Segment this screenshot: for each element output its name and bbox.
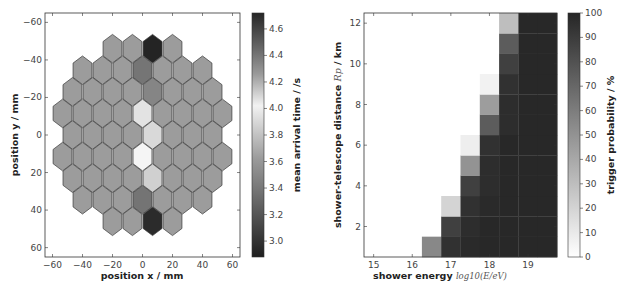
- heatmap-cell: [518, 115, 538, 136]
- y-tick-label: 0: [36, 130, 42, 140]
- right-x-axis-label: shower energy log10(E/eV): [373, 270, 507, 281]
- colorbar-tick-label: 3.8: [269, 130, 284, 140]
- heatmap-cell: [518, 155, 538, 176]
- heatmap-cell: [538, 155, 558, 176]
- colorbar-tick-label: 4.6: [269, 24, 284, 34]
- y-tick-label: −20: [23, 92, 42, 102]
- left-x-axis-label: position x / mm: [101, 270, 184, 281]
- colorbar-tick-label: 60: [585, 106, 597, 116]
- y-tick-label: 2: [355, 222, 361, 232]
- heatmap-cell: [499, 237, 519, 258]
- heatmap-cell: [518, 54, 538, 75]
- left-colorbar-ticks: 3.03.23.43.63.84.04.24.44.6: [264, 24, 284, 246]
- y-tick-label: 4: [355, 181, 361, 191]
- heatmap-cell: [499, 74, 519, 95]
- heatmap-cell: [461, 196, 481, 217]
- y-tick-label: 12: [350, 18, 361, 28]
- heatmap-cell: [518, 94, 538, 115]
- heatmap-cell: [538, 115, 558, 136]
- heatmap-cell: [518, 176, 538, 197]
- heatmap-cell: [518, 74, 538, 95]
- right-colorbar-ticks: 0102030405060708090100: [580, 8, 602, 262]
- x-tick-label: 17: [445, 260, 456, 270]
- heatmap-cell: [499, 155, 519, 176]
- right-panel-trigger-heatmap: 151617181924681012 shower energy log10(E…: [332, 8, 616, 281]
- heatmap-cell: [499, 176, 519, 197]
- left-y-axis-label: position y / mm: [9, 94, 20, 177]
- right-y-axis-label: shower-telescope distance Rp / km: [332, 42, 343, 228]
- colorbar-tick-label: 50: [585, 130, 597, 140]
- heatmap-cell: [518, 33, 538, 54]
- heatmap-cell: [499, 13, 519, 34]
- colorbar-tick-label: 100: [585, 8, 602, 18]
- colorbar-tick-label: 70: [585, 81, 597, 91]
- heatmap-cell: [518, 196, 538, 217]
- heatmap-cell: [461, 155, 481, 176]
- heatmap-cell: [441, 216, 461, 237]
- x-tick-label: 19: [522, 260, 534, 270]
- colorbar-tick-label: 3.2: [269, 210, 283, 220]
- x-tick-label: −60: [43, 260, 62, 270]
- colorbar-tick-label: 3.0: [269, 236, 284, 246]
- heatmap-cell: [480, 176, 500, 197]
- x-tick-label: −40: [73, 260, 92, 270]
- x-tick-label: 40: [197, 260, 209, 270]
- left-panel-camera-map: −60−40−200204060−60−40−200204060 positio…: [9, 13, 302, 281]
- heatmap-cell: [441, 196, 461, 217]
- x-tick-label: −20: [103, 260, 122, 270]
- left-colorbar-label: mean arrival time / /s: [291, 77, 302, 192]
- heatmap-cell: [499, 196, 519, 217]
- y-tick-label: 8: [355, 100, 361, 110]
- heatmap-cell: [480, 196, 500, 217]
- heatmap-cell: [480, 74, 500, 95]
- heatmap-cell: [480, 94, 500, 115]
- x-tick-label: 20: [167, 260, 179, 270]
- heatmap-cell: [538, 33, 558, 54]
- colorbar-tick-label: 30: [585, 179, 597, 189]
- heatmap-cell: [422, 237, 442, 258]
- heatmap-cell: [538, 74, 558, 95]
- heatmap-cell: [538, 237, 558, 258]
- x-tick-label: 16: [407, 260, 419, 270]
- heatmap-cell: [480, 135, 500, 156]
- heatmap-cell: [518, 216, 538, 237]
- heatmap-cell: [518, 13, 538, 34]
- y-tick-label: −60: [23, 17, 42, 27]
- heatmap-cell: [538, 196, 558, 217]
- heatmap-cell: [461, 237, 481, 258]
- right-colorbar-label: trigger probability / %: [605, 75, 616, 194]
- heatmap-cell: [499, 54, 519, 75]
- colorbar-tick-label: 80: [585, 57, 597, 67]
- heatmap-cell: [499, 135, 519, 156]
- colorbar-tick-label: 4.2: [269, 77, 283, 87]
- right-colorbar: [568, 13, 580, 257]
- x-tick-label: 0: [140, 260, 146, 270]
- heatmap-cell: [480, 216, 500, 237]
- heatmap-cell: [480, 155, 500, 176]
- heatmap-cell: [499, 94, 519, 115]
- y-tick-label: 10: [350, 59, 362, 69]
- heatmap-cell: [461, 176, 481, 197]
- colorbar-tick-label: 20: [585, 203, 597, 213]
- figure: −60−40−200204060−60−40−200204060 positio…: [0, 0, 621, 290]
- left-colorbar: [252, 13, 264, 257]
- heatmap-cell: [461, 216, 481, 237]
- x-tick-label: 60: [227, 260, 239, 270]
- heatmap-cell: [499, 216, 519, 237]
- colorbar-tick-label: 0: [585, 252, 591, 262]
- heatmap-cell: [461, 135, 481, 156]
- y-tick-label: −40: [23, 55, 42, 65]
- y-tick-label: 6: [355, 140, 361, 150]
- colorbar-tick-label: 4.0: [269, 103, 284, 113]
- colorbar-tick-label: 4.4: [269, 50, 284, 60]
- y-tick-label: 60: [31, 243, 43, 253]
- heatmap-cell: [499, 33, 519, 54]
- heatmap-cell: [499, 115, 519, 136]
- colorbar-tick-label: 3.4: [269, 183, 284, 193]
- colorbar-tick-label: 3.6: [269, 157, 284, 167]
- colorbar-tick-label: 90: [585, 32, 597, 42]
- x-tick-label: 18: [484, 260, 496, 270]
- colorbar-tick-label: 40: [585, 154, 597, 164]
- x-tick-label: 15: [368, 260, 379, 270]
- heatmap-cell: [480, 115, 500, 136]
